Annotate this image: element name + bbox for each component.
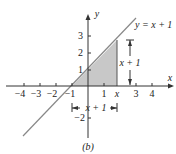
x-axis-label: x xyxy=(167,72,173,83)
y-tick-label: 2 xyxy=(78,47,83,58)
y-tick-label: 3 xyxy=(78,30,83,41)
height-label: x + 1 xyxy=(118,57,140,68)
x-tick-label: −3 xyxy=(31,88,42,99)
x-tick-label: x xyxy=(114,88,120,99)
arrow-down-icon xyxy=(128,79,132,85)
y-axis-arrow-icon xyxy=(86,14,91,20)
x-tick-label: 1 xyxy=(102,88,107,99)
figure-caption: (b) xyxy=(82,141,94,153)
y-tick-label: −2 xyxy=(74,112,85,123)
x-tick-label: −4 xyxy=(15,88,26,99)
x-axis-arrow-icon xyxy=(168,84,174,89)
arrow-right-icon xyxy=(111,106,117,110)
arrow-left-icon xyxy=(72,106,78,110)
base-label: x + 1 xyxy=(84,102,106,113)
diagram: −4 −3 −2 −1 1 x 3 4 1 2 3 −2 x y y = x +… xyxy=(0,0,176,154)
y-tick-label: 1 xyxy=(78,64,83,75)
x-tick-label: 3 xyxy=(134,88,139,99)
y-axis-label: y xyxy=(94,8,100,19)
line-label: y = x + 1 xyxy=(134,19,172,30)
x-tick-label: −1 xyxy=(65,88,76,99)
x-tick-label: 4 xyxy=(150,88,155,99)
x-tick-label: −2 xyxy=(47,88,58,99)
arrow-up-icon xyxy=(128,40,132,46)
